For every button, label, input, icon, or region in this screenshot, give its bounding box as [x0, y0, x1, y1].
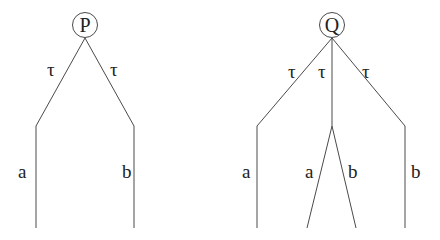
p-root-label: P: [79, 14, 90, 36]
p-tau-left-edge: [36, 38, 85, 126]
p-tau-right-edge: [85, 38, 134, 126]
p-tau-right-label: τ: [110, 59, 118, 80]
q-a-mid-label: a: [305, 161, 314, 182]
process-trees-diagram: P τ τ a b Q τ τ τ a a b b: [0, 0, 440, 240]
q-tau-right-edge: [332, 38, 405, 126]
p-b-label: b: [122, 161, 132, 182]
q-a-left-label: a: [242, 161, 251, 182]
q-b-right-label: b: [411, 161, 421, 182]
p-tau-left-label: τ: [47, 59, 55, 80]
p-a-label: a: [18, 161, 27, 182]
q-tau-left-edge: [257, 38, 332, 126]
q-tau-right-label: τ: [362, 61, 370, 82]
tree-q: Q τ τ τ a a b b: [242, 13, 421, 229]
tree-p: P τ τ a b: [18, 13, 134, 229]
q-tau-left-label: τ: [288, 61, 296, 82]
q-b-mid-label: b: [348, 161, 358, 182]
q-root-label: Q: [325, 14, 340, 36]
q-tau-mid-label: τ: [318, 61, 326, 82]
